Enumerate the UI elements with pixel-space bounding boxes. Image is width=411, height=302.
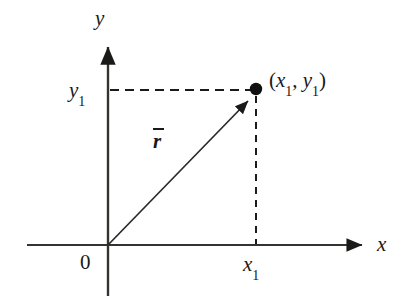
vector-symbol: r — [152, 131, 164, 152]
position-vector-diagram: y x 0 y1 x1 (x1, y1) r — [0, 0, 411, 302]
y-tick-symbol: y — [69, 78, 78, 102]
position-vector-arrow — [108, 101, 248, 245]
point-x-subscript: 1 — [285, 84, 292, 99]
origin-label: 0 — [80, 252, 91, 273]
coordinate-separator: , — [292, 68, 303, 92]
point-coordinate-label: (x1, y1) — [269, 70, 326, 91]
x-tick-symbol: x — [243, 252, 252, 276]
point-marker — [250, 83, 262, 95]
y-tick-subscript: 1 — [78, 94, 85, 109]
point-y-symbol: y — [303, 68, 312, 92]
point-y-subscript: 1 — [312, 84, 319, 99]
paren-open: ( — [269, 68, 276, 92]
point-x-symbol: x — [276, 68, 285, 92]
y-tick-label-y1: y1 — [69, 80, 85, 101]
vector-label: r — [152, 128, 164, 152]
x-axis-label: x — [377, 234, 386, 255]
x-tick-subscript: 1 — [252, 268, 259, 283]
paren-close: ) — [319, 68, 326, 92]
y-axis-label: y — [95, 8, 104, 29]
x-tick-label-x1: x1 — [243, 254, 259, 275]
diagram-canvas — [0, 0, 411, 302]
